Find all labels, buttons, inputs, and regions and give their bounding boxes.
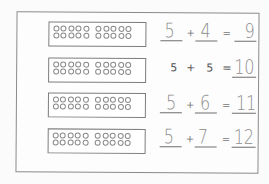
circle-icon bbox=[110, 133, 116, 139]
circle-icon bbox=[67, 133, 73, 139]
blank-b bbox=[195, 112, 217, 113]
circle-icon bbox=[68, 104, 74, 110]
circle-icon bbox=[102, 140, 108, 146]
circle-icon bbox=[83, 62, 89, 68]
equals-sign: = bbox=[222, 28, 230, 39]
circle-icon bbox=[95, 133, 101, 139]
circle-icon bbox=[60, 132, 66, 138]
circle-icon bbox=[125, 140, 131, 146]
circle-icon bbox=[60, 103, 66, 109]
circle-icon bbox=[82, 97, 88, 103]
plus-sign: + bbox=[186, 27, 194, 38]
circle-icon bbox=[67, 140, 73, 146]
addend-a: 5 bbox=[164, 126, 174, 146]
circle-icon bbox=[96, 26, 102, 32]
circle-icon bbox=[82, 104, 88, 110]
group-gap bbox=[90, 133, 94, 139]
group-gap bbox=[90, 33, 94, 39]
counter-dots bbox=[53, 96, 131, 110]
circle-icon bbox=[110, 104, 116, 110]
circle-icon bbox=[117, 133, 123, 139]
circle-icon bbox=[110, 33, 116, 39]
blank-a bbox=[160, 146, 182, 147]
circle-icon bbox=[110, 140, 116, 146]
circle-icon bbox=[53, 139, 59, 145]
ten-frame-3 bbox=[48, 92, 146, 118]
circle-icon bbox=[53, 103, 59, 109]
blank-sum bbox=[234, 41, 256, 42]
equals-sign: = bbox=[222, 62, 231, 75]
circle-icon bbox=[61, 61, 67, 67]
group-gap bbox=[90, 62, 94, 68]
circle-icon bbox=[53, 25, 59, 31]
circle-icon bbox=[118, 33, 124, 39]
sum: 12 bbox=[234, 127, 255, 147]
circle-icon bbox=[95, 97, 101, 103]
circle-icon bbox=[61, 68, 67, 74]
circle-icon bbox=[103, 26, 109, 32]
circle-icon bbox=[125, 104, 131, 110]
counter-dots bbox=[53, 132, 131, 146]
circle-icon bbox=[53, 32, 59, 38]
circle-icon bbox=[110, 69, 116, 75]
sum: 11 bbox=[236, 93, 257, 113]
circle-icon bbox=[60, 139, 66, 145]
plus-sign: + bbox=[186, 133, 194, 144]
circle-icon bbox=[103, 33, 109, 39]
circle-icon bbox=[53, 68, 59, 74]
equation-1: 5 + 4 = 9 bbox=[160, 19, 260, 44]
addend-a: 5 bbox=[164, 20, 174, 40]
group-gap bbox=[90, 26, 94, 32]
worksheet: 5 + 4 = 9 5 + 5 = 10 5 + 6 = 11 5 bbox=[15, 11, 259, 174]
circle-icon bbox=[103, 104, 109, 110]
circle-icon bbox=[83, 33, 89, 39]
circle-icon bbox=[82, 140, 88, 146]
group-gap bbox=[90, 97, 94, 103]
circle-icon bbox=[75, 97, 81, 103]
circle-icon bbox=[103, 97, 109, 103]
addend-a: 5 bbox=[170, 61, 177, 74]
circle-icon bbox=[75, 69, 81, 75]
group-gap bbox=[90, 69, 94, 75]
circle-icon bbox=[68, 26, 74, 32]
circle-icon bbox=[60, 96, 66, 102]
circle-icon bbox=[83, 69, 89, 75]
circle-icon bbox=[95, 69, 101, 75]
ten-frame-1 bbox=[48, 21, 146, 47]
blank-b bbox=[195, 146, 217, 147]
circle-icon bbox=[68, 33, 74, 39]
circle-icon bbox=[110, 62, 116, 68]
equation-3: 5 + 6 = 11 bbox=[160, 91, 260, 116]
sum: 10 bbox=[234, 57, 255, 77]
circle-icon bbox=[103, 69, 109, 75]
counter-dots bbox=[53, 25, 131, 39]
circle-icon bbox=[117, 140, 123, 146]
circle-icon bbox=[82, 133, 88, 139]
circle-icon bbox=[103, 62, 109, 68]
blank-sum bbox=[232, 147, 256, 148]
circle-icon bbox=[75, 104, 81, 110]
addend-a: 5 bbox=[166, 92, 176, 112]
circle-icon bbox=[110, 97, 116, 103]
plus-sign: + bbox=[186, 61, 195, 74]
circle-icon bbox=[117, 104, 123, 110]
equation-4: 5 + 7 = 12 bbox=[160, 125, 260, 150]
circle-icon bbox=[68, 97, 74, 103]
circle-icon bbox=[125, 69, 131, 75]
circle-icon bbox=[76, 26, 82, 32]
blank-a bbox=[160, 112, 182, 113]
ten-frame-2 bbox=[48, 57, 146, 83]
circle-icon bbox=[118, 26, 124, 32]
circle-icon bbox=[96, 62, 102, 68]
circle-icon bbox=[102, 133, 108, 139]
group-gap bbox=[90, 104, 94, 110]
circle-icon bbox=[75, 140, 81, 146]
circle-icon bbox=[125, 97, 131, 103]
circle-icon bbox=[95, 140, 101, 146]
equals-sign: = bbox=[222, 134, 230, 145]
circle-icon bbox=[118, 69, 124, 75]
circle-icon bbox=[117, 97, 123, 103]
circle-icon bbox=[53, 61, 59, 67]
addend-b: 7 bbox=[198, 126, 208, 146]
circle-icon bbox=[96, 33, 102, 39]
